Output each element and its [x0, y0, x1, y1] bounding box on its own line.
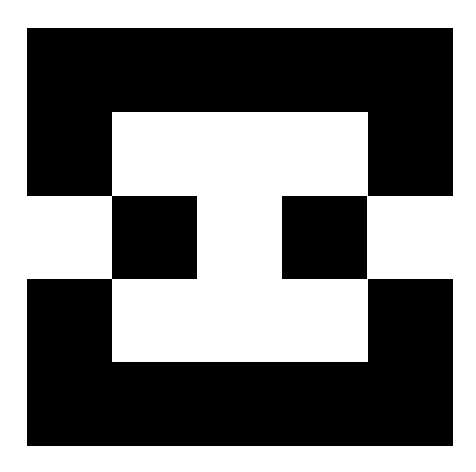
middle-right-black-square [282, 196, 367, 279]
middle-left-black-square [112, 196, 197, 279]
abstract-geometric-figure [0, 0, 476, 472]
top-black-bar [27, 28, 453, 112]
upper-left-black-block [27, 112, 112, 196]
upper-right-black-block [368, 112, 453, 196]
bottom-black-bar [27, 362, 453, 446]
lower-left-black-block [27, 279, 112, 362]
lower-right-black-block [368, 279, 453, 362]
artboard: Black and White Geometric Composition [0, 0, 476, 472]
